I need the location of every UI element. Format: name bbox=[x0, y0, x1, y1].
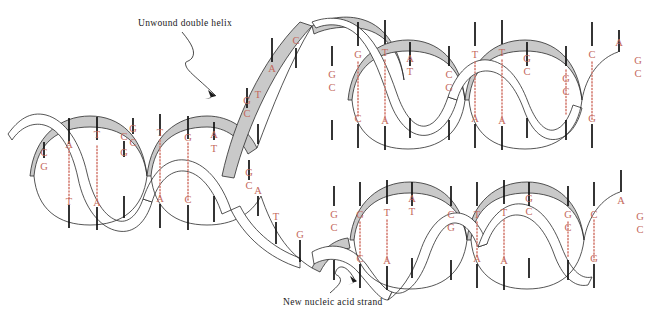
base-letter: G bbox=[525, 193, 533, 204]
base-letter: C bbox=[445, 69, 452, 80]
annotation-arrowhead bbox=[348, 276, 357, 285]
base-letter: G bbox=[328, 69, 336, 80]
base-letter: G bbox=[356, 209, 364, 220]
base-letter: C bbox=[564, 222, 571, 233]
base-letter: T bbox=[66, 196, 73, 207]
base-letter: A bbox=[406, 53, 414, 64]
base-letter: A bbox=[156, 193, 164, 204]
base-letter: G bbox=[634, 55, 642, 66]
base-letter: T bbox=[157, 127, 164, 138]
base-letter: T bbox=[255, 89, 262, 100]
lower-turn-3-rungs bbox=[568, 170, 621, 288]
base-letter: A bbox=[500, 255, 508, 266]
base-letter: G bbox=[590, 253, 598, 264]
lower-outline-3 bbox=[584, 192, 620, 240]
base-letter: C bbox=[129, 137, 136, 148]
base-letter: C bbox=[634, 68, 641, 79]
base-letter: C bbox=[590, 209, 597, 220]
annotation-leader-line bbox=[182, 32, 216, 96]
base-letter: C bbox=[447, 209, 454, 220]
base-letter: G bbox=[445, 82, 453, 93]
base-letter: A bbox=[210, 129, 218, 140]
base-letter: T bbox=[474, 209, 481, 220]
base-letter: G bbox=[523, 53, 531, 64]
base-letter: A bbox=[408, 193, 416, 204]
dna-diagram-canvas: C G A T T A C G G C T bbox=[0, 0, 648, 325]
base-letter: A bbox=[473, 253, 481, 264]
replication-fork: G C T A C G C A T G bbox=[222, 22, 312, 268]
lower-ribbon-front-1 bbox=[312, 246, 392, 300]
base-letter: A bbox=[383, 255, 391, 266]
base-letter: A bbox=[65, 139, 73, 150]
base-letter: G bbox=[243, 95, 251, 106]
base-letter: C bbox=[120, 131, 127, 142]
base-letter: G bbox=[562, 73, 570, 84]
base-letter: T bbox=[94, 129, 101, 140]
annotation-label: Unwound double helix bbox=[138, 18, 232, 28]
base-letter: G bbox=[354, 49, 362, 60]
base-letter: C bbox=[292, 35, 299, 46]
base-letter: G bbox=[40, 161, 48, 172]
annotation-label: New nucleic acid strand bbox=[283, 297, 383, 307]
base-letter: A bbox=[498, 115, 506, 126]
base-letter: G bbox=[447, 222, 455, 233]
fork-lower-arm bbox=[231, 206, 300, 268]
base-letter: A bbox=[471, 113, 479, 124]
base-letter: T bbox=[409, 206, 416, 217]
lower-ribbon-front-2 bbox=[388, 213, 487, 300]
annotation-unwound-double-helix: Unwound double helix bbox=[138, 18, 232, 99]
base-letter: C bbox=[356, 253, 363, 264]
base-letter: A bbox=[268, 63, 276, 74]
base-letter: A bbox=[254, 185, 262, 196]
base-letter: C bbox=[245, 180, 252, 191]
base-letter: C bbox=[562, 86, 569, 97]
dna-replication-figure: C G A T T A C G G C T bbox=[0, 0, 648, 325]
base-letter: C bbox=[40, 147, 47, 158]
base-letter: C bbox=[525, 206, 532, 217]
parent-ribbon-front-2 bbox=[143, 160, 231, 214]
lower-ribbon-front-3 bbox=[478, 204, 592, 286]
base-letter: A bbox=[617, 195, 625, 206]
base-letter: C bbox=[588, 49, 595, 60]
base-letter: G bbox=[120, 147, 128, 158]
base-letter: C bbox=[354, 113, 361, 124]
lower-turn-1-hbonds bbox=[360, 220, 387, 260]
base-letter: T bbox=[407, 66, 414, 77]
base-letter: T bbox=[472, 49, 479, 60]
base-letter: C bbox=[328, 82, 335, 93]
base-letter: A bbox=[93, 197, 101, 208]
base-letter: G bbox=[296, 229, 304, 240]
base-letter: G bbox=[129, 123, 137, 134]
base-letter: G bbox=[636, 211, 644, 222]
base-letter: C bbox=[523, 66, 530, 77]
base-letter: A bbox=[615, 37, 623, 48]
base-letter: G bbox=[184, 132, 192, 143]
base-letter: G bbox=[588, 113, 596, 124]
base-letter: C bbox=[330, 222, 337, 233]
base-letter: C bbox=[184, 194, 191, 205]
base-letter: G bbox=[564, 209, 572, 220]
base-letter: G bbox=[245, 167, 253, 178]
base-letter: C bbox=[636, 224, 643, 235]
base-letter: T bbox=[499, 47, 506, 58]
base-letter: T bbox=[273, 211, 280, 222]
base-letter: T bbox=[382, 47, 389, 58]
base-letter: C bbox=[243, 108, 250, 119]
base-letter: T bbox=[384, 207, 391, 218]
base-letter: G bbox=[330, 209, 338, 220]
base-letter: A bbox=[381, 115, 389, 126]
upper-outline-3 bbox=[582, 52, 618, 100]
daughter-helix-upper: G C G C T A A T C G bbox=[312, 17, 642, 150]
base-letter: T bbox=[211, 143, 218, 154]
base-letter: T bbox=[501, 207, 508, 218]
daughter-helix-lower: G C G C T A A T C G bbox=[312, 170, 644, 300]
